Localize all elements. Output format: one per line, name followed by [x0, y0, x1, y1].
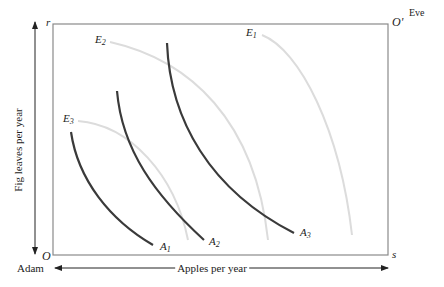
edgeworth-box-diagram: [0, 0, 444, 287]
adam-curve-a1: [71, 132, 153, 245]
eve-curve-label-e2: E2: [95, 33, 106, 47]
eve-name-label: Eve: [409, 7, 425, 18]
apples-axis-title: Apples per year: [175, 262, 249, 274]
box-frame: [53, 24, 388, 255]
eve-curve-e1: [262, 35, 352, 235]
adam-curve-label-a3: A3: [300, 226, 311, 240]
adam-curve-label-a2: A2: [209, 235, 220, 249]
corner-label-s: s: [392, 248, 396, 260]
eve-origin-label: O': [392, 15, 403, 30]
eve-curve-label-e1: E1: [246, 26, 257, 40]
adam-curve-label-a1: A1: [160, 240, 171, 254]
adam-curve-a3: [167, 43, 294, 233]
eve-curve-e2: [110, 42, 268, 240]
eve-curve-e3: [78, 121, 188, 240]
fig-leaves-axis-title: Fig leaves per year: [12, 106, 24, 193]
corner-label-r: r: [46, 16, 50, 28]
adam-curve-a2: [117, 91, 204, 240]
adam-name-label: Adam: [17, 262, 44, 274]
eve-curve-label-e3: E3: [63, 112, 74, 126]
